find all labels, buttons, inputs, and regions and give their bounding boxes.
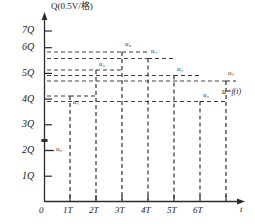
y-tick-label-5q: 5Q — [22, 68, 34, 78]
y-tick-label-1q: 1Q — [22, 171, 34, 181]
x-origin-label: 0 — [39, 206, 44, 215]
x-tick-label-2t: 2T — [89, 206, 99, 215]
y-tick-label-7q: 7Q — [22, 25, 34, 35]
x-tick-label-6t: 6T — [193, 206, 203, 215]
step-label-u3: u₃ — [125, 41, 131, 48]
step-waveform-figure: Q(0.5V/格) 1Q 2Q 3Q 4Q 5Q 6Q 7Q 0 1T 2T 3… — [0, 0, 255, 224]
step-label-u4: u₄ — [151, 48, 157, 55]
u0-axis-mark — [42, 139, 48, 142]
curve-function-label: u=f(t) — [222, 88, 241, 96]
step-label-u5: u₅ — [177, 66, 183, 73]
waveform-staircase — [70, 52, 236, 200]
y-tick-label-2q: 2Q — [22, 145, 34, 155]
step-label-u2: u₂ — [99, 61, 105, 68]
x-tick-marks — [70, 195, 226, 202]
x-tick-label-5t: 5T — [167, 206, 177, 215]
figure-canvas — [0, 0, 255, 224]
x-tick-label-3t: 3T — [115, 206, 125, 215]
step-label-u0: u₀ — [56, 146, 62, 153]
y-tick-label-3q: 3Q — [22, 119, 34, 129]
step-label-u6: u₆ — [203, 92, 209, 99]
axes-group — [42, 12, 245, 204]
x-tick-label-1t: 1T — [63, 206, 73, 215]
reference-levels-group — [47, 52, 226, 102]
y-tick-label-4q: 4Q — [22, 94, 34, 104]
baseline-marker-group — [42, 139, 55, 151]
step-label-u7: u₇ — [228, 70, 234, 77]
y-axis-title: Q(0.5V/格) — [51, 2, 93, 11]
step-label-u1: u₁ — [73, 99, 79, 106]
x-tick-label-4t: 4T — [141, 206, 151, 215]
x-axis-title: t — [240, 205, 243, 214]
y-axis-arrow — [42, 12, 48, 20]
y-tick-marks — [45, 31, 53, 176]
y-tick-label-6q: 6Q — [22, 42, 34, 52]
